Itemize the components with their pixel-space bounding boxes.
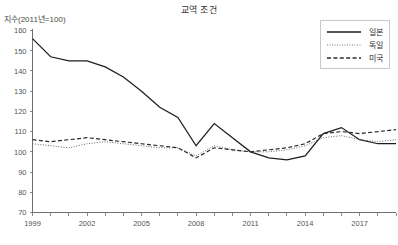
x-axis-ticks: 1999200220052008201120142017 (24, 213, 396, 228)
y-tick-label: 90 (18, 168, 26, 177)
x-tick-label: 2002 (79, 219, 96, 228)
legend-swatch-dotted-icon (326, 41, 362, 49)
x-tick-label: 2014 (297, 219, 314, 228)
chart-legend: 일본 독일 미국 (320, 20, 390, 69)
legend-item-germany: 독일 (326, 38, 383, 51)
x-tick-label: 1999 (24, 219, 41, 228)
x-tick-label: 2008 (188, 219, 205, 228)
x-tick-label: 2011 (243, 219, 259, 228)
legend-label-germany: 독일 (369, 39, 383, 50)
y-tick-label: 100 (14, 148, 27, 157)
legend-swatch-dashed-icon (326, 54, 362, 62)
y-tick-label: 80 (18, 188, 26, 197)
y-tick-label: 70 (18, 208, 26, 217)
x-tick-label: 2017 (351, 219, 368, 228)
chart-container: 교역 조건 지수(2011년=100) 70809010011012013014… (0, 0, 398, 245)
legend-label-japan: 일본 (369, 26, 383, 37)
legend-item-japan: 일본 (326, 25, 383, 38)
y-tick-label: 130 (14, 87, 27, 96)
legend-item-usa: 미국 (326, 51, 383, 64)
y-tick-label: 150 (14, 47, 27, 56)
legend-swatch-solid-icon (326, 28, 362, 36)
x-tick-label: 2005 (133, 219, 150, 228)
y-axis-ticks: 708090100110120130140150160 (14, 26, 33, 217)
y-tick-label: 120 (14, 107, 27, 116)
y-tick-label: 140 (14, 67, 27, 76)
series-line-dotted (33, 136, 397, 156)
y-tick-label: 160 (14, 26, 27, 35)
legend-label-usa: 미국 (369, 52, 383, 63)
y-tick-label: 110 (15, 127, 27, 136)
